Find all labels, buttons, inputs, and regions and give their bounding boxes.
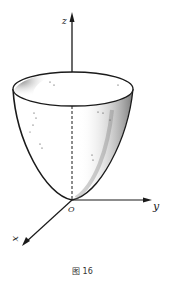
paraboloid-surface [13, 72, 133, 200]
figure-caption: 图 16 [72, 267, 93, 276]
x-axis [22, 200, 72, 246]
paraboloid-diagram: z y x O 图 16 [0, 0, 169, 281]
z-axis-arrow-icon [70, 12, 75, 22]
z-axis-label: z [61, 16, 67, 26]
x-axis-arrow-icon [22, 237, 30, 246]
origin-label: O [68, 205, 75, 214]
y-axis [72, 198, 152, 203]
y-axis-label: y [152, 200, 160, 213]
x-axis-label: x [11, 236, 22, 242]
y-axis-arrow-icon [143, 198, 152, 203]
